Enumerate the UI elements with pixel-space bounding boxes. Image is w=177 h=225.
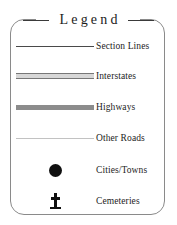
section-lines-symbol [14, 31, 96, 61]
highways-symbol [14, 92, 96, 122]
cased-line-icon [16, 73, 94, 79]
title-rule-left [23, 20, 49, 21]
cross-horizontal-arm [51, 197, 60, 200]
cross-base [50, 207, 61, 210]
thick-line-icon [16, 105, 94, 110]
cemeteries-symbol [14, 186, 96, 216]
legend-entry-cemeteries: Cemeteries [10, 186, 165, 216]
legend-entry-cities-towns: Cities/Towns [10, 155, 165, 185]
faint-line-icon [16, 138, 94, 139]
legend-entry-interstates: Interstates [10, 61, 165, 91]
interstates-symbol [14, 61, 96, 91]
legend-entry-label: Other Roads [96, 123, 145, 153]
legend-entry-label: Cities/Towns [96, 155, 147, 185]
legend-entry-label: Interstates [96, 61, 136, 91]
thin-line-icon [16, 46, 94, 47]
legend-entry-label: Cemeteries [96, 186, 140, 216]
legend-title-row: Legend [0, 11, 177, 29]
legend-entry-highways: Highways [10, 92, 165, 122]
cities-towns-symbol [14, 155, 96, 185]
legend-entry-label: Highways [96, 92, 135, 122]
legend-entry-section-lines: Section Lines [10, 31, 165, 61]
legend-entry-other-roads: Other Roads [10, 123, 165, 153]
legend-entry-label: Section Lines [96, 31, 149, 61]
title-rule-right [128, 20, 154, 21]
other-roads-symbol [14, 123, 96, 153]
cross-icon [50, 193, 61, 209]
map-legend: Legend Section Lines Interstates Highway… [0, 0, 177, 225]
filled-circle-icon [49, 164, 62, 177]
legend-title: Legend [56, 13, 120, 27]
